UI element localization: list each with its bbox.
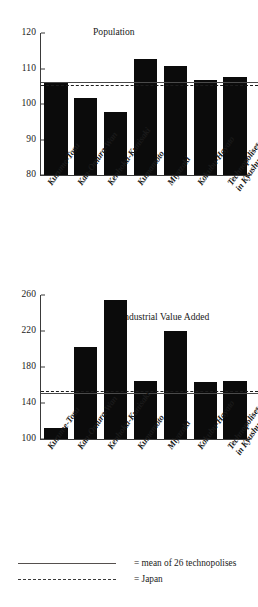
mean-line-swatch (18, 563, 116, 564)
legend-label-japan: = Japan (134, 572, 163, 587)
figure-technopolis-indicators: Population 120 110 100 90 80 Kurume-Tosu… (0, 0, 258, 607)
reference-line-mean (41, 82, 258, 83)
chart-panel-industrial-value-added: Industrial Value Added 260 220 180 140 1… (0, 250, 258, 540)
ytick-label: 180 (21, 362, 41, 372)
ytick-label: 100 (21, 434, 41, 444)
legend-label-mean: = mean of 26 technopolises (134, 556, 236, 571)
ytick-label: 260 (21, 290, 41, 300)
x-axis-labels-population: Kurume-TosuKan-Omura-WanKenhoku-Kunisaki… (40, 180, 250, 248)
ytick-label: 110 (22, 64, 41, 74)
reference-line-japan (41, 85, 258, 86)
legend-row-japan: = Japan (18, 572, 258, 588)
ytick-label: 80 (26, 170, 41, 180)
ytick-label: 100 (21, 99, 41, 109)
ytick-label: 120 (21, 28, 41, 38)
legend: = mean of 26 technopolises = Japan (18, 556, 258, 588)
chart-panel-population: Population 120 110 100 90 80 Kurume-Tosu… (0, 0, 258, 250)
ytick-label: 140 (21, 398, 41, 408)
japan-line-swatch (18, 579, 116, 580)
ytick-label: 220 (21, 326, 41, 336)
reference-line-japan (41, 391, 258, 392)
ytick-label: 90 (26, 135, 41, 145)
x-axis-labels-industrial-value-added: Kurume-TosuKan-Omura-WanKenhoku-Kunisaki… (40, 444, 250, 512)
legend-row-mean: = mean of 26 technopolises (18, 556, 258, 572)
